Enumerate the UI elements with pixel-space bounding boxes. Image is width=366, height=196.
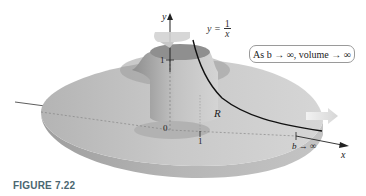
x-tick-label: 1 <box>198 137 203 146</box>
curve-equation: y = 1 x <box>207 19 231 38</box>
x-axis-label: x <box>341 150 345 160</box>
x-axis-arrowhead <box>339 142 349 148</box>
y-tick-label: 1 <box>160 56 165 65</box>
annotation-box: As b → ∞, volume → ∞ <box>249 45 355 63</box>
y-axis-arrowhead <box>167 13 173 20</box>
figure-caption: FIGURE 7.22 <box>13 180 75 191</box>
b-label: b → ∞ <box>292 142 316 151</box>
rotation-arrow-icon <box>154 32 190 42</box>
origin-label: 0 <box>163 124 168 133</box>
x-axis-negative <box>15 102 45 106</box>
solid-of-revolution-diagram <box>0 0 366 196</box>
curve-equation-lhs: y = <box>207 23 221 34</box>
curve-equation-fraction: 1 x <box>224 19 231 38</box>
horn-top <box>150 44 210 60</box>
fraction-denominator: x <box>225 29 229 38</box>
region-label: R <box>214 108 221 119</box>
y-axis-label: y <box>162 12 166 22</box>
